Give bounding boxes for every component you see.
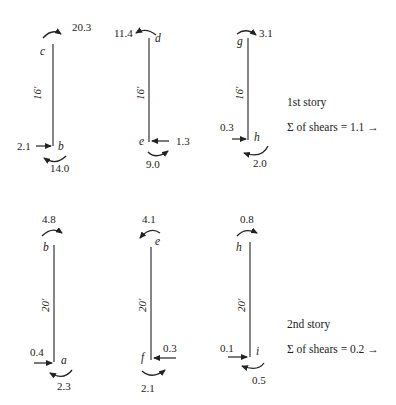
moment-arrow-icon [242, 363, 264, 368]
top-moment: 20.3 [72, 21, 92, 33]
column-d-e: 11.4 d 16′ 1.3 e 9.0 [114, 27, 190, 170]
bottom-moment: 2.0 [253, 157, 267, 169]
column-length: 16′ [233, 86, 245, 100]
bottom-moment: 2.1 [141, 382, 155, 394]
shear-value: 2.1 [17, 140, 31, 152]
moment-arrow-icon [244, 146, 268, 155]
top-moment: 4.8 [42, 213, 56, 225]
joint-label-bottom: h [254, 131, 260, 143]
shear-value: 0.4 [30, 346, 44, 358]
column-length: 20′ [235, 298, 247, 312]
joint-label-top: h [236, 241, 242, 253]
column-g-h: 3.1 g 16′ 0.3 h 2.0 [220, 27, 273, 169]
column-c-b: 20.3 c 16′ 2.1 b 14.0 [17, 21, 92, 174]
joint-label-bottom: i [256, 345, 259, 357]
column-length: 20′ [39, 298, 51, 312]
shear-value: 0.3 [220, 121, 234, 133]
top-moment: 4.1 [142, 213, 156, 225]
joint-label-top: e [155, 235, 160, 247]
bottom-moment: 9.0 [146, 158, 160, 170]
moment-arrow-icon [237, 231, 257, 236]
column-b-a: 4.8 b 20′ 0.4 a 2.3 [30, 213, 72, 392]
joint-label-top: c [40, 45, 45, 57]
joint-label-top: g [237, 35, 243, 48]
joint-label-bottom: b [58, 140, 64, 152]
moment-arrow-icon [142, 370, 165, 375]
joint-label-top: b [43, 241, 49, 253]
bottom-moment: 0.5 [252, 374, 266, 386]
story-label: 2nd story [287, 318, 330, 331]
top-moment: 3.1 [259, 27, 273, 39]
column-length: 16′ [134, 86, 146, 100]
moment-arrow-icon [136, 30, 156, 35]
joint-label-bottom: f [141, 351, 146, 364]
top-moment: 11.4 [114, 27, 133, 39]
top-moment: 0.8 [240, 213, 254, 225]
moment-arrow-icon [148, 151, 168, 156]
moment-arrow-icon [43, 32, 61, 38]
shear-sum: Σ of shears = 0.2 → [287, 343, 379, 355]
column-e-f: 4.1 e 20′ f 0.3 2.1 [136, 213, 177, 394]
moment-arrow-icon [50, 370, 72, 376]
shear-sum: Σ of shears = 1.1 → [287, 121, 379, 133]
moment-arrow-icon [42, 230, 62, 236]
joint-label-bottom: a [61, 354, 67, 366]
shear-value: 1.3 [176, 135, 190, 147]
story-label: 1st story [287, 96, 327, 109]
column-length: 16′ [31, 86, 43, 100]
column-free-body-diagrams: 20.3 c 16′ 2.1 b 14.0 11.4 d 16′ 1.3 e 9… [0, 0, 396, 405]
bottom-moment: 14.0 [50, 162, 70, 174]
shear-value: 0.1 [220, 342, 234, 354]
moment-arrow-icon [44, 156, 66, 162]
joint-label-bottom: e [139, 135, 144, 147]
shear-value: 0.3 [163, 342, 177, 354]
joint-label-top: d [155, 32, 161, 44]
bottom-moment: 2.3 [57, 380, 71, 392]
column-h-i: 0.8 h 20′ 0.1 i 0.5 [220, 213, 266, 386]
column-length: 20′ [136, 298, 148, 312]
